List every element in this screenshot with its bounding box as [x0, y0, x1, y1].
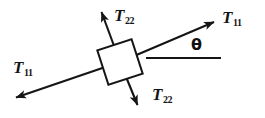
label-t11-right: T11 [222, 9, 242, 28]
stress-element-square [97, 39, 142, 84]
label-angle-theta: θ [191, 37, 202, 53]
label-t22-bottom-symbol: T [152, 85, 162, 104]
label-t22-top-symbol: T [114, 6, 124, 25]
label-t11-right-symbol: T [222, 8, 232, 27]
label-t22-bottom-subscript: 22 [163, 94, 172, 105]
figure-canvas: T22 T11 T11 T22 θ [0, 0, 265, 118]
label-t22-bottom: T22 [152, 86, 172, 105]
label-t22-top: T22 [114, 7, 134, 26]
label-t11-left-symbol: T [13, 58, 23, 77]
label-t22-top-subscript: 22 [125, 15, 134, 26]
label-t11-left: T11 [13, 59, 33, 78]
label-t11-left-subscript: 11 [24, 67, 33, 78]
label-t11-right-subscript: 11 [233, 17, 242, 28]
